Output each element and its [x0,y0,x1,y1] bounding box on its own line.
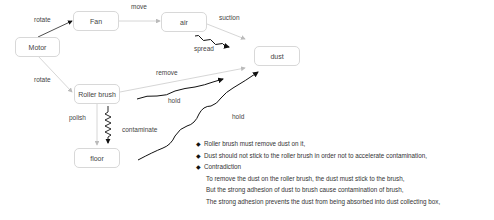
diamond-bullet-icon: ◆ [196,139,204,151]
note-subline: The strong adhesion prevents the dust fr… [196,196,440,208]
node-fan: Fan [73,11,119,31]
note-subline: To remove the dust on the roller brush, … [196,173,440,185]
node-air: air [161,12,207,32]
label-suction: suction [219,14,240,21]
label-polish: polish [69,114,86,121]
notes-block: ◆Roller brush must remove dust on it, ◆D… [196,138,440,207]
label-hold-roller: hold [168,97,180,104]
note-bullet: ◆Roller brush must remove dust on it, [196,138,440,150]
node-dust: dust [254,46,300,66]
note-bullet: ◆Dust should not stick to the roller bru… [196,150,440,162]
label-rotate-fan: rotate [34,16,51,23]
node-roller-brush: Roller brush [74,84,120,104]
node-motor: Motor [15,37,60,57]
label-contaminate: contaminate [122,126,157,133]
diamond-bullet-icon: ◆ [196,162,204,174]
note-subline: But the strong adhesion of dust to brush… [196,184,440,196]
label-move: move [131,3,147,10]
label-hold-floor: hold [232,113,244,120]
label-spread: spread [194,45,214,52]
label-rotate-roller: rotate [34,76,51,83]
node-floor: floor [74,148,120,168]
label-remove: remove [156,69,178,76]
note-bullet: ◆Contradiction [196,161,440,173]
